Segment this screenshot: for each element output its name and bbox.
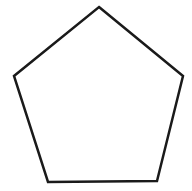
pentagon-figure: Pentagon [0,0,192,191]
drawing-canvas: Pentagon [0,0,192,191]
pentagon-shape [14,7,183,182]
